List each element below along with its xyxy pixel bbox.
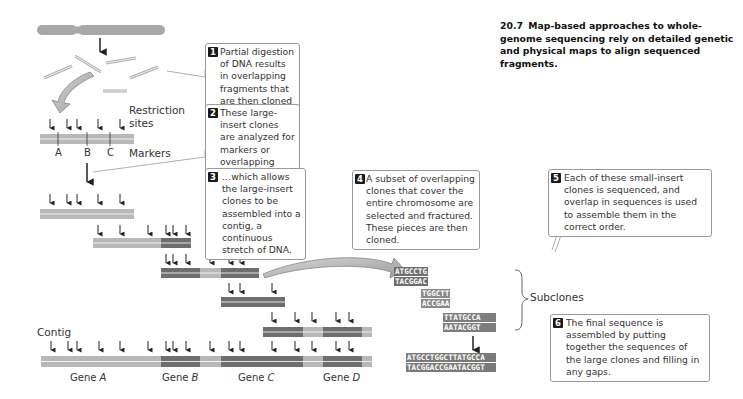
subclone-3-sequence: TTATGCCAAATACGGT — [443, 313, 482, 333]
clone-row-4 — [221, 297, 285, 307]
marker-a-label: A — [55, 147, 62, 158]
step-4-number: 4 — [355, 174, 365, 184]
subclone-2-sequence: TGGCTTACCGAA — [421, 289, 450, 309]
step-4-text: A subset of overlapping clones that cove… — [366, 173, 475, 245]
gene-c-label: Gene C — [238, 372, 275, 383]
clone-row-1 — [40, 209, 134, 219]
large-insert-clone-markers — [40, 132, 134, 146]
subclone-1-sequence: ATGCCTGTACGGAC — [394, 267, 428, 287]
figure-caption-text: Map-based approaches to whole-genome seq… — [500, 20, 733, 69]
curved-arrow-icon — [52, 72, 94, 113]
step-6-text: The final sequence is assembled by putti… — [566, 317, 699, 377]
subclones-label: Subclones — [530, 291, 584, 303]
figure-number: 20.7 — [500, 20, 523, 31]
step-5-callout: 5 Each of these small-insert clones is s… — [548, 169, 712, 237]
contig-bar — [41, 356, 372, 367]
clone-row-3 — [161, 268, 259, 278]
step-4-callout: 4 A subset of overlapping clones that co… — [352, 170, 480, 250]
gene-b-label: Gene B — [162, 372, 198, 383]
step-3-number: 3 — [208, 172, 218, 182]
chromosome — [37, 25, 165, 35]
gene-d-label: Gene D — [323, 372, 360, 383]
markers-label: Markers — [129, 147, 171, 159]
step-3-callout: 3 …which allows the large-insert clones … — [205, 168, 306, 260]
gene-a-label: Gene A — [70, 372, 106, 383]
marker-c-label: C — [107, 147, 114, 158]
curved-arrow-icon — [263, 258, 405, 278]
dna-fragments — [44, 56, 158, 91]
final-sequence: ATGCCTGGCTTATGCCATACGGACCGAATACGGT — [406, 353, 486, 373]
step-6-callout: 6 The final sequence is assembled by put… — [550, 314, 710, 382]
figure-caption: 20.7 Map-based approaches to whole-genom… — [500, 20, 740, 70]
step-1-number: 1 — [208, 47, 218, 57]
marker-b-label: B — [84, 147, 91, 158]
clone-row-2 — [93, 238, 191, 248]
restriction-sites-label: Restriction sites — [129, 104, 185, 130]
subclones-brace — [515, 270, 528, 330]
contig-label: Contig — [37, 326, 71, 338]
step-6-number: 6 — [553, 318, 563, 328]
step-5-number: 5 — [551, 173, 561, 183]
clone-row-5 — [263, 327, 372, 337]
step-3-text: …which allows the large-insert clones to… — [222, 171, 301, 255]
step-2-number: 2 — [208, 108, 218, 118]
step-5-text: Each of these small-insert clones is seq… — [564, 172, 697, 232]
